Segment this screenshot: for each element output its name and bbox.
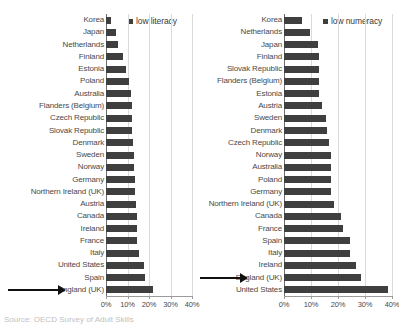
bar[interactable]	[106, 102, 132, 109]
bar[interactable]	[106, 250, 139, 257]
bar-row[interactable]: Germany	[0, 173, 197, 185]
bar-row[interactable]: Slovak Republic	[0, 124, 197, 136]
bar-row[interactable]: Italy	[0, 247, 197, 259]
bar-row[interactable]: Australia	[0, 88, 197, 100]
bar[interactable]	[106, 17, 111, 24]
bar[interactable]	[106, 139, 133, 146]
bar-row[interactable]: Spain	[198, 235, 395, 247]
bar[interactable]	[106, 286, 153, 293]
bar-row[interactable]: Sweden	[0, 149, 197, 161]
bar-row[interactable]: Korea	[0, 14, 197, 26]
bar[interactable]	[106, 66, 126, 73]
category-label: Czech Republic	[0, 114, 106, 122]
bar-row[interactable]: Canada	[198, 210, 395, 222]
bar[interactable]	[106, 225, 137, 232]
bar-row[interactable]: Japan	[0, 26, 197, 38]
bar[interactable]	[106, 78, 129, 85]
bar-row[interactable]: Finland	[0, 51, 197, 63]
bar-row[interactable]: Estonia	[198, 88, 395, 100]
bar[interactable]	[284, 115, 326, 122]
bar-row[interactable]: Czech Republic	[0, 112, 197, 124]
bar-row[interactable]: Flanders (Belgium)	[0, 100, 197, 112]
bar-row[interactable]: France	[198, 223, 395, 235]
bar[interactable]	[106, 53, 123, 60]
bar-row[interactable]: Sweden	[198, 112, 395, 124]
bar[interactable]	[106, 201, 136, 208]
bar[interactable]	[284, 176, 331, 183]
bar-row[interactable]: France	[0, 235, 197, 247]
bar-row[interactable]: Northern Ireland (UK)	[0, 186, 197, 198]
bar[interactable]	[106, 164, 134, 171]
bar-row[interactable]: Estonia	[0, 63, 197, 75]
bar-row[interactable]: Poland	[198, 173, 395, 185]
bar[interactable]	[284, 213, 341, 220]
bar-row[interactable]: Japan	[198, 39, 395, 51]
bar[interactable]	[284, 17, 302, 24]
bar[interactable]	[106, 90, 131, 97]
bar-row[interactable]: Ireland	[0, 223, 197, 235]
bar[interactable]	[284, 274, 361, 281]
bar-row[interactable]: Netherlands	[198, 26, 395, 38]
bar[interactable]	[284, 90, 319, 97]
bar[interactable]	[284, 201, 334, 208]
bar[interactable]	[284, 102, 322, 109]
bar-row[interactable]: Norway	[0, 161, 197, 173]
bar[interactable]	[106, 29, 116, 36]
bar[interactable]	[106, 262, 144, 269]
bar[interactable]	[106, 213, 137, 220]
bar[interactable]	[284, 164, 331, 171]
bar[interactable]	[284, 29, 310, 36]
bar-track	[106, 137, 197, 149]
bar-row[interactable]: Australia	[198, 161, 395, 173]
bar[interactable]	[106, 237, 137, 244]
bar[interactable]	[106, 115, 132, 122]
bar-row[interactable]: United States	[198, 284, 395, 296]
category-label: Poland	[0, 77, 106, 85]
category-label: United States	[0, 261, 106, 269]
bar-row[interactable]: Ireland	[198, 259, 395, 271]
bar-row[interactable]: Spain	[0, 272, 197, 284]
bar-row[interactable]: United States	[0, 259, 197, 271]
bar[interactable]	[284, 127, 327, 134]
bar[interactable]	[284, 225, 343, 232]
category-label: Northern Ireland (UK)	[198, 200, 284, 208]
bar-track	[284, 75, 395, 87]
bar-row[interactable]: Slovak Republic	[198, 63, 395, 75]
bar[interactable]	[284, 286, 388, 293]
bar[interactable]	[106, 188, 135, 195]
bar-row[interactable]: Czech Republic	[198, 137, 395, 149]
bar-row[interactable]: Denmark	[0, 137, 197, 149]
bar[interactable]	[106, 41, 118, 48]
bar[interactable]	[284, 41, 318, 48]
bar-row[interactable]: Finland	[198, 51, 395, 63]
bar-row[interactable]: Italy	[198, 247, 395, 259]
bar[interactable]	[284, 188, 331, 195]
bar[interactable]	[106, 176, 135, 183]
bar-row[interactable]: Netherlands	[0, 39, 197, 51]
bar[interactable]	[284, 250, 350, 257]
bar[interactable]	[284, 66, 319, 73]
bar[interactable]	[106, 274, 145, 281]
bar-track	[284, 26, 395, 38]
bar-row[interactable]: Germany	[198, 186, 395, 198]
bar[interactable]	[106, 127, 132, 134]
bar[interactable]	[284, 152, 331, 159]
value-axis-left: 0%10%20%30%40%	[0, 296, 197, 310]
bar[interactable]	[284, 262, 356, 269]
bar-row[interactable]: Korea	[198, 14, 395, 26]
bar-row[interactable]: Northern Ireland (UK)	[198, 198, 395, 210]
bar-row[interactable]: Austria	[0, 198, 197, 210]
bar[interactable]	[284, 78, 319, 85]
bar-row[interactable]: Denmark	[198, 124, 395, 136]
bar[interactable]	[284, 53, 319, 60]
bar[interactable]	[284, 139, 329, 146]
bar[interactable]	[284, 237, 350, 244]
bar-row[interactable]: Flanders (Belgium)	[198, 75, 395, 87]
bar-row[interactable]: Austria	[198, 100, 395, 112]
bar-row[interactable]: Norway	[198, 149, 395, 161]
category-label: France	[0, 237, 106, 245]
bar[interactable]	[106, 152, 134, 159]
bar-row[interactable]: Poland	[0, 75, 197, 87]
bar-track	[284, 272, 395, 284]
bar-row[interactable]: Canada	[0, 210, 197, 222]
